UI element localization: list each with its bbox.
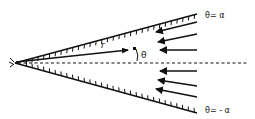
diagram-canvas: r θ θ= α θ= - α [0,0,255,119]
upper-wall-label: θ= α [205,11,224,20]
angle-label: θ [141,50,147,60]
lower-wall [15,62,197,113]
flow-arrows [156,22,197,97]
radius-vector-arrow [16,50,128,62]
flow-arrow [158,34,197,42]
flow-arrow [158,80,197,86]
wedge-diagram: r θ θ= α θ= - α [0,0,255,119]
flow-arrow [156,89,197,97]
angle-indicator: θ [133,47,147,61]
lower-wall-label: θ= - α [205,106,230,115]
vertex-hatch [9,58,14,67]
radius-label: r [101,40,106,50]
